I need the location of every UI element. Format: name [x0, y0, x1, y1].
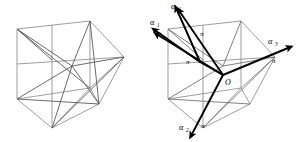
- svg-text:4: 4: [178, 6, 181, 12]
- svg-text:3: 3: [274, 41, 278, 47]
- left-cube-edges: [17, 21, 124, 128]
- diagram-svg: α 4 α 1 α 3 α 2 π π π π O: [0, 0, 297, 142]
- right-cube-figure: α 4 α 1 α 3 α 2 π π π π O: [150, 2, 288, 134]
- svg-text:α: α: [268, 37, 273, 46]
- label-pi-top: π: [200, 30, 204, 38]
- label-alpha1: α 1: [150, 18, 160, 28]
- label-origin: O: [225, 78, 231, 87]
- label-pi-bottom: π: [201, 122, 205, 130]
- label-pi-right: π: [272, 57, 276, 65]
- vector-alpha3: [223, 48, 288, 75]
- label-alpha4: α 4: [171, 2, 181, 12]
- label-alpha3: α 3: [268, 37, 278, 47]
- svg-text:α: α: [150, 18, 155, 27]
- label-pi-left: π: [186, 58, 190, 66]
- normal-vectors: [156, 10, 288, 134]
- label-alpha2: α 2: [179, 123, 189, 133]
- svg-text:2: 2: [186, 127, 189, 133]
- figure-container: α 4 α 1 α 3 α 2 π π π π O: [0, 0, 297, 142]
- left-cube-figure: [17, 21, 124, 128]
- svg-text:1: 1: [157, 22, 160, 28]
- vector-alpha2: [192, 75, 223, 134]
- svg-text:α: α: [179, 123, 184, 132]
- svg-text:α: α: [171, 2, 176, 11]
